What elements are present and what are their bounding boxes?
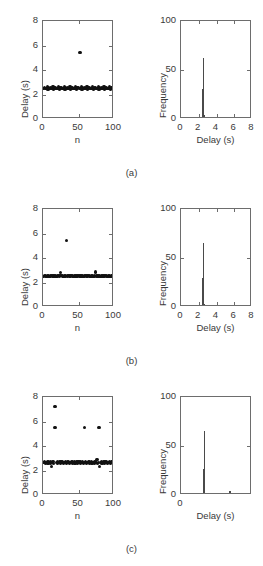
x-tick-label: 50 bbox=[64, 310, 92, 320]
plot-canvas bbox=[181, 397, 250, 493]
x-tick-mark bbox=[234, 21, 235, 24]
y-axis-label: Delay (s) bbox=[20, 456, 30, 494]
x-tick-label: 100 bbox=[99, 498, 127, 508]
x-tick-label: 0 bbox=[28, 310, 56, 320]
y-tick-mark bbox=[43, 95, 46, 96]
scatter-point bbox=[54, 426, 57, 429]
y-tick-mark bbox=[109, 234, 112, 235]
y-tick-mark bbox=[109, 95, 112, 96]
y-tick-mark bbox=[43, 258, 46, 259]
x-tick-mark bbox=[199, 302, 200, 305]
x-tick-mark bbox=[79, 397, 80, 400]
x-axis-label: n bbox=[42, 323, 113, 333]
y-tick-mark bbox=[43, 446, 46, 447]
y-tick-mark bbox=[43, 70, 46, 71]
plot-canvas bbox=[43, 397, 112, 493]
panel-a: 02468050100nDelay (s) 05010002468Delay (… bbox=[0, 0, 263, 188]
x-axis-label: n bbox=[42, 135, 113, 145]
y-tick-mark bbox=[181, 70, 184, 71]
x-tick-mark bbox=[79, 114, 80, 117]
scatter-point bbox=[53, 405, 56, 408]
x-axis-label: Delay (s) bbox=[180, 511, 251, 521]
x-tick-mark bbox=[199, 21, 200, 24]
y-tick-label: 6 bbox=[8, 416, 38, 426]
y-axis-label: Delay (s) bbox=[20, 268, 30, 306]
y-tick-label: 100 bbox=[146, 391, 176, 401]
x-tick-mark bbox=[79, 490, 80, 493]
y-tick-label: 4 bbox=[8, 64, 38, 74]
x-tick-mark bbox=[79, 21, 80, 24]
x-tick-mark bbox=[217, 209, 218, 212]
y-tick-label: 6 bbox=[8, 228, 38, 238]
y-tick-label: 8 bbox=[8, 203, 38, 213]
figure-delay-panels: 02468050100nDelay (s) 05010002468Delay (… bbox=[0, 0, 263, 566]
y-tick-mark bbox=[109, 70, 112, 71]
panel-c: 02468050100nDelay (s) 050100050100Delay … bbox=[0, 376, 263, 564]
x-axis-label: Delay (s) bbox=[180, 323, 251, 333]
x-tick-label: 8 bbox=[237, 122, 263, 132]
x-tick-label: 50 bbox=[64, 122, 92, 132]
scatter-point bbox=[98, 465, 101, 468]
x-tick-mark bbox=[217, 21, 218, 24]
plot-canvas bbox=[181, 21, 250, 117]
y-axis-label: Frequency bbox=[158, 73, 168, 118]
y-tick-mark bbox=[109, 283, 112, 284]
scatter-point bbox=[50, 465, 53, 468]
y-tick-mark bbox=[247, 70, 250, 71]
x-tick-mark bbox=[217, 114, 218, 117]
histogram-bar bbox=[229, 491, 231, 493]
x-axis-label: n bbox=[42, 511, 113, 521]
y-tick-mark bbox=[181, 258, 184, 259]
axes-frame bbox=[180, 396, 251, 494]
x-tick-label: 0 bbox=[28, 498, 56, 508]
y-tick-mark bbox=[109, 446, 112, 447]
panel-label-c: (c) bbox=[0, 544, 263, 554]
x-tick-mark bbox=[199, 114, 200, 117]
y-tick-label: 100 bbox=[146, 203, 176, 213]
axes-frame bbox=[180, 20, 251, 118]
panel-label-a: (a) bbox=[0, 168, 263, 178]
scatter-point bbox=[78, 51, 81, 54]
x-tick-mark bbox=[79, 209, 80, 212]
scatter-point bbox=[65, 239, 68, 242]
plot-canvas bbox=[181, 209, 250, 305]
panel-label-b: (b) bbox=[0, 356, 263, 366]
x-tick-label: 0 bbox=[166, 498, 194, 508]
x-tick-mark bbox=[199, 209, 200, 212]
x-tick-label: 8 bbox=[237, 310, 263, 320]
histogram-bar bbox=[203, 58, 205, 117]
scatter-point bbox=[83, 426, 86, 429]
y-tick-label: 8 bbox=[8, 391, 38, 401]
x-tick-label: 0 bbox=[28, 122, 56, 132]
histogram-bar bbox=[203, 243, 205, 305]
y-tick-mark bbox=[247, 258, 250, 259]
y-tick-label: 8 bbox=[8, 15, 38, 25]
y-tick-mark bbox=[43, 46, 46, 47]
axes-frame bbox=[180, 208, 251, 306]
y-tick-mark bbox=[109, 258, 112, 259]
x-tick-label: 100 bbox=[99, 122, 127, 132]
histogram-bar bbox=[204, 431, 206, 493]
y-axis-label: Frequency bbox=[158, 449, 168, 494]
y-tick-label: 100 bbox=[146, 15, 176, 25]
x-tick-mark bbox=[234, 302, 235, 305]
y-tick-label: 6 bbox=[8, 40, 38, 50]
plot-canvas bbox=[43, 209, 112, 305]
x-tick-mark bbox=[234, 209, 235, 212]
y-axis-label: Frequency bbox=[158, 261, 168, 306]
axes-frame bbox=[42, 396, 113, 494]
y-tick-mark bbox=[43, 234, 46, 235]
x-axis-label: Delay (s) bbox=[180, 135, 251, 145]
y-tick-mark bbox=[43, 471, 46, 472]
y-tick-label: 4 bbox=[8, 440, 38, 450]
y-tick-mark bbox=[43, 283, 46, 284]
panel-b: 02468050100nDelay (s) 05010002468Delay (… bbox=[0, 188, 263, 376]
y-tick-mark bbox=[247, 446, 250, 447]
x-tick-mark bbox=[79, 302, 80, 305]
y-axis-label: Delay (s) bbox=[20, 80, 30, 118]
y-tick-mark bbox=[181, 446, 184, 447]
y-tick-mark bbox=[109, 46, 112, 47]
axes-frame bbox=[42, 20, 113, 118]
y-tick-mark bbox=[109, 471, 112, 472]
axes-frame bbox=[42, 208, 113, 306]
